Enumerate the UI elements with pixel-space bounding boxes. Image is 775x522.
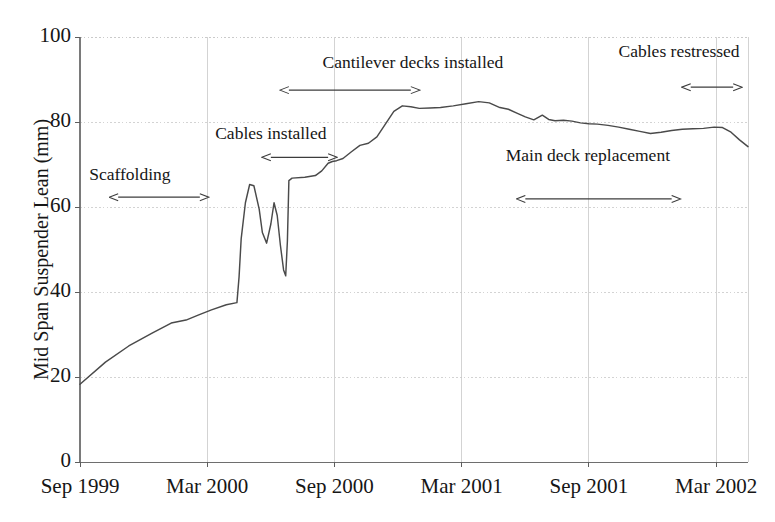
axis-tick-marks xyxy=(75,37,716,467)
data-series-line xyxy=(80,102,748,385)
chart-container: 020406080100 Sep 1999Mar 2000Sep 2000Mar… xyxy=(0,0,775,522)
annotation-label-cables-restressed: Cables restressed xyxy=(529,41,775,62)
annotation-label-main-deck-replacement: Main deck replacement xyxy=(438,145,738,166)
annotation-label-cables-installed: Cables installed xyxy=(121,123,421,144)
y-axis-tick-label: 0 xyxy=(61,448,72,473)
chart-plot-svg xyxy=(0,0,775,522)
axis-lines xyxy=(80,37,748,462)
annotation-label-cantilever-decks-installed: Cantilever decks installed xyxy=(263,52,563,73)
y-axis-tick-label: 100 xyxy=(40,23,72,48)
y-axis-tick-label: 20 xyxy=(50,363,71,388)
y-axis-tick-label: 80 xyxy=(50,108,71,133)
y-axis-tick-label: 40 xyxy=(50,278,71,303)
series-line-0 xyxy=(80,102,748,385)
gridlines xyxy=(80,37,748,462)
y-axis-title: Mid Span Suspender Lean (mm) xyxy=(30,119,53,380)
x-axis-tick-label: Mar 2002 xyxy=(616,474,775,499)
y-axis-tick-label: 60 xyxy=(50,193,71,218)
